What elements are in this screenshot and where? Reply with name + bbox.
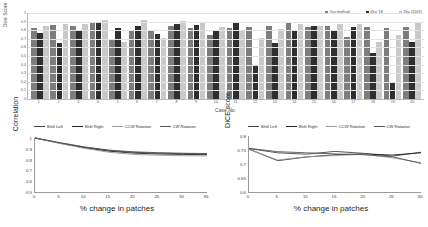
bar-y-tick-label: 0.8 (21, 28, 26, 32)
line-legend-item: CCW Rotation (326, 124, 365, 129)
bar-gridline (28, 47, 424, 48)
dice-chart-x-axis-label: % change in patches (238, 204, 424, 213)
line-x-tick-label: 0 (33, 194, 35, 199)
line-x-tick-label: 0 (247, 194, 249, 199)
line-y-tick-label: 0.8 (26, 157, 32, 162)
bar-y-tick-label: 0.2 (21, 80, 26, 84)
line-y-tick-label: 0.8 (240, 134, 246, 139)
bar (168, 26, 174, 99)
line-x-tick-label: 35 (204, 194, 209, 199)
bar (317, 26, 323, 99)
line-y-tick-label: 0.5 (26, 190, 32, 195)
line-x-tick-label: 15 (105, 194, 110, 199)
line-legend-item: Shift Right (72, 124, 103, 129)
bar (82, 24, 88, 99)
bar (174, 24, 180, 99)
bar (357, 24, 363, 99)
bar (415, 23, 421, 99)
bar-gridline (28, 39, 424, 40)
line-x-tick-label: 30 (179, 194, 184, 199)
line-legend-item: CCW Rotation (112, 124, 151, 129)
line-y-tick-label: 0.6 (26, 179, 32, 184)
legend-line-icon (326, 126, 337, 127)
bar (325, 26, 331, 99)
bar (286, 23, 292, 99)
bar (90, 22, 96, 99)
dice-chart-legend: Shift LeftShift RightCCW RotationCW Rota… (236, 122, 422, 130)
bar (63, 24, 69, 99)
legend-line-icon (112, 126, 123, 127)
line-legend-item: CW Rotation (374, 124, 410, 129)
line-y-tick-label: 0.75 (237, 148, 246, 153)
line-x-tick-label: 30 (418, 194, 423, 199)
line-x-tick-label: 20 (360, 194, 365, 199)
bar (246, 27, 252, 99)
line-x-tick-label: 20 (130, 194, 135, 199)
bar (194, 25, 200, 99)
line-legend-item: Shift Right (286, 124, 317, 129)
line-y-tick-label: 0.7 (26, 168, 32, 173)
legend-line-icon (374, 126, 385, 127)
bar (305, 27, 311, 99)
correlation-chart-plot-area (34, 138, 207, 193)
bar (266, 26, 272, 99)
correlation-chart-x-axis-ticks: 05101520253035 (34, 194, 206, 201)
correlation-chart-y-axis-ticks: 10.90.80.70.60.5 (20, 138, 32, 192)
line-y-tick-label: 0.65 (237, 176, 246, 181)
dice-chart-y-axis-ticks: 0.80.750.70.650.6 (232, 136, 246, 192)
bar (298, 24, 304, 99)
bar (50, 25, 56, 99)
line-y-tick-label: 0.7 (240, 162, 246, 167)
line-legend-item: CW Rotation (160, 124, 196, 129)
bar (141, 20, 147, 99)
line-legend-item: Shift Left (34, 124, 63, 129)
bar-gridline (28, 30, 424, 31)
dice-chart-y-axis-label: DICE score (224, 82, 231, 138)
legend-line-icon (248, 126, 259, 127)
legend-line-icon (160, 126, 171, 127)
line-legend-label: Shift Left (47, 124, 63, 129)
line-y-tick-label: 0.6 (240, 190, 246, 195)
bar (43, 26, 49, 99)
bar-chart-y-axis-label: Dice Score (2, 0, 8, 38)
bar-gridline (28, 56, 424, 57)
bar-y-tick-label: 0.4 (21, 63, 26, 67)
line-legend-label: CW Rotation (387, 124, 410, 129)
line-legend-item: Shift Left (248, 124, 277, 129)
bar-y-tick-label: 0.3 (21, 71, 26, 75)
correlation-line-chart: Shift LeftShift RightCCW RotationCW Rota… (0, 118, 214, 227)
bar (364, 27, 370, 99)
bar (337, 24, 343, 99)
correlation-chart-y-axis-label: Correlation (12, 88, 19, 140)
bar-gridline (28, 65, 424, 66)
bar (70, 26, 76, 99)
line-x-tick-label: 25 (154, 194, 159, 199)
bar-chart-y-axis-ticks: 10.90.80.70.60.50.40.30.20.10 (12, 13, 26, 99)
bar-y-tick-label: 0.5 (21, 54, 26, 58)
line-legend-label: Shift Right (84, 124, 103, 129)
line-series (35, 138, 207, 154)
figure-root: Our methodZhu '18Zhu (2019) Dice Score 1… (0, 0, 428, 227)
legend-line-icon (286, 126, 297, 127)
bar-y-tick-label: 1 (24, 11, 26, 15)
correlation-chart-lines (35, 138, 207, 192)
line-x-tick-label: 10 (81, 194, 86, 199)
legend-line-icon (72, 126, 83, 127)
correlation-chart-legend: Shift LeftShift RightCCW RotationCW Rota… (22, 122, 208, 130)
bar (396, 35, 402, 100)
line-legend-label: CCW Rotation (125, 124, 151, 129)
bar (233, 23, 239, 99)
line-series (35, 138, 207, 154)
line-x-tick-label: 10 (303, 194, 308, 199)
dice-chart-plot-area (248, 136, 421, 193)
line-x-tick-label: 25 (389, 194, 394, 199)
bar-y-tick-label: 0.1 (21, 88, 26, 92)
line-x-tick-label: 5 (57, 194, 59, 199)
bar-gridline (28, 73, 424, 74)
bar (180, 21, 186, 99)
bar-y-tick-label: 0 (24, 97, 26, 101)
dice-chart-lines (249, 136, 421, 192)
bar-y-tick-label: 0.7 (21, 37, 26, 41)
bar (403, 27, 409, 99)
bar (155, 34, 161, 99)
